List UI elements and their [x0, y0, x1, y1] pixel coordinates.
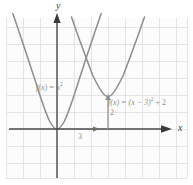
x-axis-label: x [178, 123, 182, 133]
shift-horizontal-label: 3 [78, 133, 82, 141]
graph-figure: y x f(x) = x2 f(x) = (x − 3)2 + 2 3 2 [0, 0, 193, 185]
equation-shifted-parabola: f(x) = (x − 3)2 + 2 [108, 99, 166, 107]
equation-basic-parabola: f(x) = x2 [36, 84, 63, 92]
equation-basic-text: f(x) = x [36, 83, 60, 92]
equation-shifted-text-b: + 2 [154, 98, 167, 107]
shift-vertical-label: 2 [110, 109, 114, 117]
equation-shifted-text-a: f(x) = (x − 3) [108, 98, 151, 107]
graph-canvas [0, 0, 193, 185]
equation-basic-exponent: 2 [60, 81, 63, 87]
y-axis-label: y [56, 1, 60, 11]
